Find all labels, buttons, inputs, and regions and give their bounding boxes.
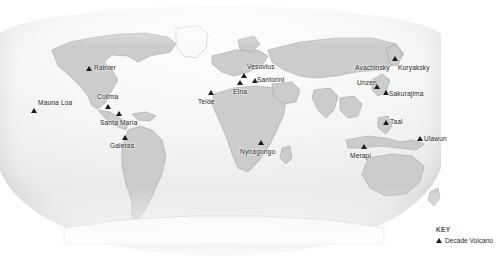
volcano-label: Avachinsky: [355, 64, 390, 71]
volcano-marker[interactable]: [417, 136, 423, 141]
volcano-label: Santorini: [257, 76, 284, 83]
volcano-marker[interactable]: [392, 56, 398, 61]
map-canvas[interactable]: [0, 6, 441, 256]
volcano-label: Taal: [390, 118, 403, 125]
volcano-marker[interactable]: [86, 66, 92, 71]
volcano-label: Merapi: [350, 152, 371, 159]
key-entry-decade-volcano: Decade Volcano: [436, 237, 493, 244]
continents-layer: [0, 6, 441, 256]
key-entry-label: Decade Volcano: [445, 237, 493, 244]
volcano-label: Koryaksky: [398, 64, 430, 71]
volcano-label: Rainier: [94, 64, 116, 71]
volcano-marker[interactable]: [208, 90, 214, 95]
volcano-label: Ulawun: [424, 135, 447, 142]
volcano-label: Vesuvius: [247, 63, 275, 70]
volcano-label: Colima: [97, 93, 118, 100]
volcano-marker[interactable]: [237, 80, 243, 85]
volcano-label: Etna: [233, 88, 247, 95]
volcano-label: Mauna Loa: [38, 99, 72, 106]
volcano-marker[interactable]: [31, 108, 37, 113]
volcano-marker[interactable]: [122, 135, 128, 140]
volcano-marker[interactable]: [361, 144, 367, 149]
volcano-label: Nyiragongo: [240, 148, 275, 155]
volcano-marker[interactable]: [241, 73, 247, 78]
volcano-marker[interactable]: [116, 111, 122, 116]
map-key: KEY Decade Volcano: [436, 226, 493, 244]
triangle-marker-icon: [436, 238, 442, 243]
volcano-label: Teide: [198, 98, 215, 105]
volcano-label: Sakurajima: [389, 90, 423, 97]
key-title: KEY: [436, 226, 493, 233]
volcano-marker[interactable]: [383, 120, 389, 125]
volcano-label: Santa María: [100, 119, 138, 126]
volcano-label: Galeras: [110, 142, 134, 149]
volcano-label: Unzen: [357, 79, 377, 86]
volcano-marker[interactable]: [258, 140, 264, 145]
volcano-marker[interactable]: [105, 104, 111, 109]
world-map-screenshot: Mauna LoaRainierColimaSanta MaríaGaleras…: [0, 0, 503, 262]
